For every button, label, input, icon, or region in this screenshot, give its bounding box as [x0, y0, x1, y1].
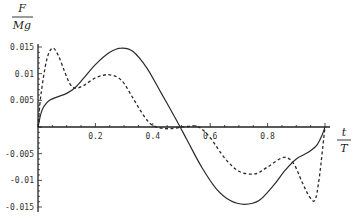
y-tick-label: 0.01 — [15, 70, 34, 79]
x-axis-title-numerator: t — [342, 126, 347, 139]
dashed-curve — [38, 48, 325, 201]
y-tick-label: -0.015 — [5, 203, 34, 212]
y-tick-label: -0.01 — [10, 176, 34, 185]
y-axis-title-numerator: F — [17, 2, 26, 15]
x-tick-label: 0.6 — [203, 132, 218, 141]
y-axis-title-denominator: Mg — [12, 19, 31, 32]
y-tick-label: 0.015 — [10, 43, 34, 52]
y-ticks: 0.0150.010.005-0.005-0.01-0.015 — [5, 43, 42, 212]
line-chart: 0.0150.010.005-0.005-0.01-0.015 0.20.40.… — [0, 0, 357, 221]
axes: 0.0150.010.005-0.005-0.01-0.015 0.20.40.… — [5, 43, 330, 212]
y-tick-label: -0.005 — [5, 150, 34, 159]
x-axis-title: t T — [337, 126, 351, 155]
x-axis-title-denominator: T — [340, 142, 349, 155]
y-axis-title: F Mg — [12, 2, 33, 32]
x-tick-label: 0.8 — [260, 132, 275, 141]
x-ticks: 0.20.40.60.8 — [52, 123, 325, 141]
x-tick-label: 0.4 — [146, 132, 161, 141]
y-tick-label: 0.005 — [10, 96, 34, 105]
x-tick-label: 0.2 — [88, 132, 103, 141]
